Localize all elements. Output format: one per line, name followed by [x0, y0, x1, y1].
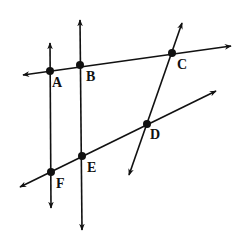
point-E: [78, 152, 86, 160]
point-F: [47, 168, 55, 176]
point-A: [46, 67, 54, 75]
label-F: F: [56, 176, 65, 191]
line-AC: [23, 46, 231, 75]
point-C: [168, 49, 176, 57]
label-D: D: [150, 127, 160, 142]
label-B: B: [86, 69, 95, 84]
geometry-diagram: A B C D E F: [0, 0, 246, 231]
point-B: [76, 61, 84, 69]
line-BE: [80, 20, 82, 230]
label-A: A: [52, 75, 63, 90]
label-E: E: [87, 160, 96, 175]
line-CD: [129, 23, 182, 175]
label-C: C: [177, 57, 187, 72]
